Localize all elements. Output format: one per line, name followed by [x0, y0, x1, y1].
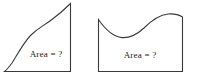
sigmoid-area-region-outline [5, 4, 71, 72]
figure-canvas: Area = ? Area = ? [0, 0, 197, 84]
left-area-label: Area = ? [30, 49, 63, 59]
right-area-label: Area = ? [124, 50, 157, 60]
area-question-figure: Area = ? Area = ? [0, 0, 197, 84]
wave-area-region-outline [99, 14, 183, 72]
